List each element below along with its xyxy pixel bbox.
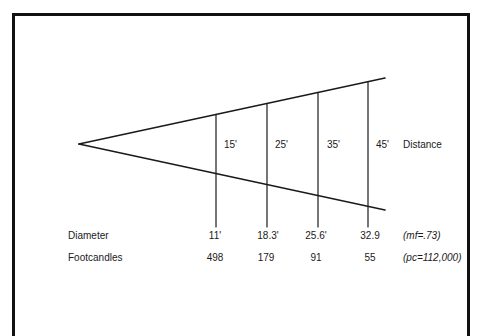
diameter-value-15: 11' (209, 230, 221, 242)
footcandles-row-label: Footcandles (68, 252, 122, 264)
footcandles-value-15: 498 (207, 252, 224, 264)
diameter-note: (mf=.73) (403, 230, 441, 242)
beam-lower-edge (79, 144, 385, 210)
beam-upper-edge (79, 78, 385, 144)
diameter-value-45: 32.9 (360, 230, 379, 242)
diameter-value-35: 25.6' (305, 230, 326, 242)
distance-label-15: 15' (224, 139, 237, 151)
distance-label-45: 45' (376, 139, 389, 151)
footcandles-value-35: 91 (310, 252, 321, 264)
diameter-row-label: Diameter (68, 230, 109, 242)
distance-label-25: 25' (275, 139, 288, 151)
distance-label-35: 35' (327, 139, 340, 151)
footcandles-note: (pc=112,000) (403, 252, 461, 264)
distance-axis-label: Distance (403, 139, 442, 151)
diameter-value-25: 18.3' (257, 230, 278, 242)
footcandles-value-45: 55 (364, 252, 375, 264)
footcandles-value-25: 179 (258, 252, 275, 264)
